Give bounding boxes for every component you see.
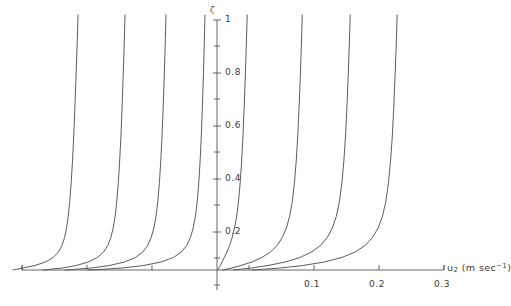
x-tick-label: 0.3 — [434, 279, 450, 289]
x-axis-title-unit-open: (m sec — [458, 262, 496, 273]
data-curve-curve-8 — [252, 15, 397, 270]
curves-group — [13, 15, 397, 270]
data-curve-curve-3 — [65, 15, 166, 270]
y-tick-label: 0.2 — [225, 226, 241, 236]
y-tick-label: 0.8 — [225, 67, 241, 77]
y-tick-label: 0.6 — [225, 120, 241, 130]
data-curve-curve-4 — [88, 15, 205, 270]
y-tick-label: 1 — [225, 14, 231, 24]
y-tick-label: 0.4 — [225, 173, 241, 183]
x-axis-title-unit-close: ) — [507, 262, 511, 273]
data-curve-curve-1 — [13, 15, 78, 270]
y-axis-symbol-label: ζ — [210, 5, 214, 14]
x-axis-title: u2 (m sec−1) — [447, 262, 511, 274]
x-axis-title-unit-sup: −1 — [496, 262, 507, 270]
x-tick-label: 0.2 — [369, 279, 385, 289]
data-curve-curve-2 — [43, 15, 125, 270]
x-tick-label: 0.1 — [304, 279, 320, 289]
data-curve-curve-7 — [233, 15, 350, 270]
axes-group — [22, 20, 444, 290]
